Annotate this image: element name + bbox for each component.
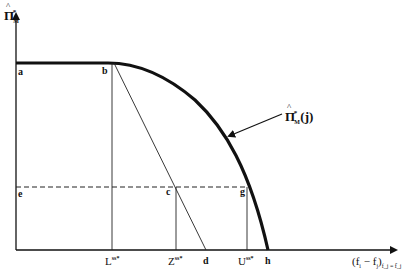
x-label-j: j: [376, 263, 378, 269]
curve-label-arg: (j): [300, 109, 313, 124]
tick-L: Lss*: [105, 255, 119, 267]
x-label-subscript: f_j = f̄_j: [382, 263, 402, 269]
x-label-i: i: [359, 263, 361, 269]
curve-label-arrow: [229, 114, 282, 136]
y-axis-label: ΠM*: [4, 9, 23, 22]
y-axis-subscript: M: [13, 18, 19, 24]
tick-L-sup: ss*: [112, 255, 120, 261]
x-label-fj: − f: [361, 255, 376, 267]
profit-curve: [16, 63, 268, 250]
tick-Z-base: Z: [168, 255, 175, 267]
point-g: g: [240, 187, 245, 197]
x-axis-label: (fi − fj)f_j = f̄_j: [352, 256, 401, 267]
point-h: h: [265, 256, 271, 266]
curve-label: ΠM*(j): [285, 110, 313, 123]
tick-U-base: U: [238, 255, 246, 267]
line-b-d: [114, 63, 206, 250]
tick-U: Uss*: [238, 255, 254, 267]
point-b: b: [102, 66, 108, 76]
y-axis-superscript: *: [13, 8, 17, 16]
curve-label-superscript: *: [294, 109, 298, 117]
tick-Z-sup: ss*: [175, 255, 183, 261]
diagram-canvas: [0, 0, 407, 277]
tick-Z: Zss*: [168, 255, 182, 267]
curve-label-subscript: M: [294, 119, 300, 125]
point-c: c: [166, 187, 170, 197]
tick-U-sup: ss*: [246, 255, 254, 261]
point-d: d: [203, 256, 209, 266]
point-e: e: [18, 189, 22, 199]
tick-L-base: L: [105, 255, 112, 267]
point-a: a: [18, 67, 23, 77]
